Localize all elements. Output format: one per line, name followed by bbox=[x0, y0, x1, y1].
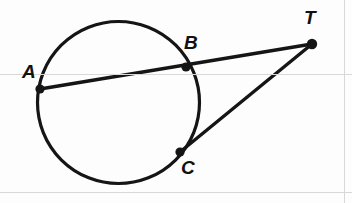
point-dot-t bbox=[307, 39, 317, 49]
point-dot-b bbox=[181, 62, 190, 71]
circle-shape bbox=[38, 22, 200, 184]
point-label-b: B bbox=[184, 33, 198, 52]
scan-artifact-right bbox=[344, 0, 345, 203]
point-label-c: C bbox=[181, 158, 195, 177]
point-dot-a bbox=[35, 84, 44, 93]
point-label-t: T bbox=[304, 8, 316, 27]
figure-canvas bbox=[0, 0, 352, 203]
scan-artifact-upper bbox=[0, 74, 352, 75]
scan-artifact-lower bbox=[0, 192, 352, 193]
geometry-figure: A B C T bbox=[0, 0, 352, 203]
secant-line-a-t bbox=[40, 44, 312, 89]
point-dot-c bbox=[175, 147, 184, 156]
point-label-a: A bbox=[22, 62, 36, 81]
